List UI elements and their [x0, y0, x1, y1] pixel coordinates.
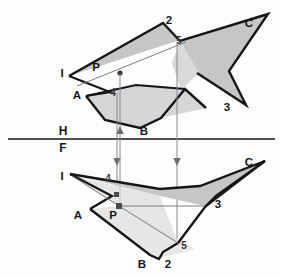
top-label-3: 3	[224, 101, 230, 113]
top-label-4: 4	[110, 87, 116, 98]
front-label-4: 4	[105, 173, 111, 184]
top-label-B: B	[140, 125, 148, 137]
front-label-C: C	[245, 156, 253, 168]
geometry-drawing: I A P 4 B 2 5 C 3 H F	[0, 0, 281, 278]
front-label-B: B	[138, 258, 146, 270]
top-label-I: I	[60, 67, 63, 79]
reference-label-H: H	[59, 124, 68, 138]
top-label-A: A	[73, 89, 81, 101]
front-label-A: A	[74, 209, 82, 221]
front-point-p-marker	[116, 203, 122, 209]
figure-canvas: I A P 4 B 2 5 C 3 H F	[0, 0, 281, 278]
reference-label-F: F	[59, 141, 66, 155]
top-label-2: 2	[166, 14, 172, 26]
front-label-I: I	[60, 170, 63, 182]
top-label-P: P	[92, 61, 100, 73]
front-point-4-marker	[114, 192, 119, 197]
front-label-5: 5	[181, 240, 187, 251]
front-label-P: P	[109, 209, 117, 221]
front-label-2: 2	[165, 258, 171, 270]
top-label-C: C	[245, 17, 253, 29]
front-label-3: 3	[215, 198, 221, 210]
